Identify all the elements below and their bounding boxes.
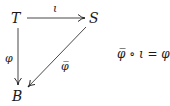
node-B: B <box>11 88 22 104</box>
label-iota: ι <box>53 2 57 15</box>
node-S: S <box>89 10 99 26</box>
label-phi: φ <box>5 52 13 65</box>
label-phi-bar: φ̅ <box>61 60 69 73</box>
arrow-phi-bar <box>28 27 86 87</box>
node-T: T <box>11 10 22 26</box>
commutativity-equation: φ̅ ∘ ι = φ <box>117 47 170 61</box>
commutative-diagram: T S B ι φ φ̅ φ̅ ∘ ι = φ <box>0 0 170 106</box>
